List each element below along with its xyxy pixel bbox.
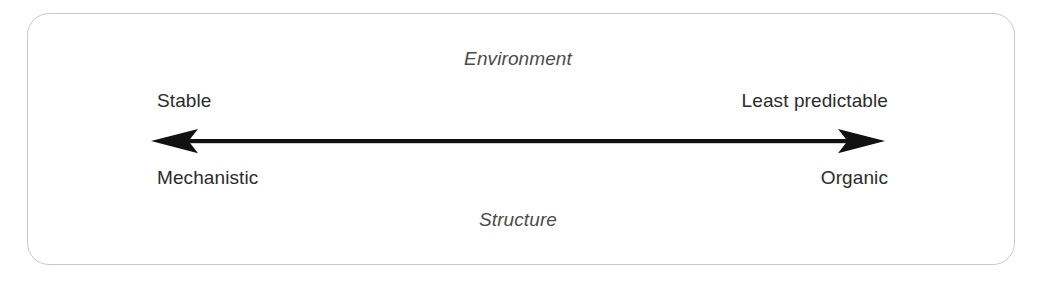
environment-caption-label: Environment — [464, 48, 572, 70]
environment-caption: Environment — [0, 48, 1040, 70]
continuum-diagram: Environment Stable Least predictable Mec… — [0, 0, 1040, 282]
continuum-arrow — [148, 122, 888, 160]
structure-caption-label: Structure — [479, 209, 557, 231]
label-mechanistic: Mechanistic — [157, 167, 258, 189]
structure-caption: Structure — [0, 209, 1040, 231]
label-least-predictable: Least predictable — [742, 90, 888, 112]
label-stable: Stable — [157, 90, 211, 112]
label-organic: Organic — [821, 167, 888, 189]
double-arrow-icon — [148, 122, 888, 160]
